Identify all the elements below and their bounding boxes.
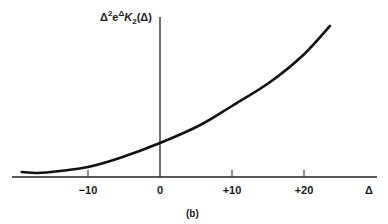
x-axis-label: Δ [365, 184, 373, 196]
x-tick-label: 0 [157, 184, 163, 196]
x-tick-label: −10 [79, 184, 98, 196]
chart-plot [0, 0, 388, 224]
y-axis-label: Δ2eΔK2(Δ) [100, 9, 152, 26]
data-curve [22, 26, 330, 173]
figure-caption: (b) [186, 208, 199, 219]
x-tick-label: +10 [223, 184, 242, 196]
x-tick-label: +20 [295, 184, 314, 196]
x-axis-ticks [88, 170, 304, 177]
